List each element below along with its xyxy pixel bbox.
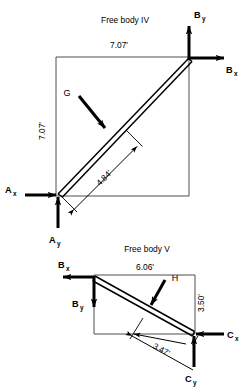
free-body-v-title: Free body V <box>124 244 170 254</box>
free-body-iv-left-dimension: 7.07' <box>37 122 47 140</box>
force-label-cy-v: C <box>185 374 192 384</box>
force-label-by-iv: B <box>194 10 201 20</box>
force-label-cx-v: C <box>227 330 234 340</box>
force-label-ay-iv: A <box>49 235 56 245</box>
load-arrow-h <box>151 280 165 305</box>
force-sublabel-ax-iv: x <box>13 190 17 197</box>
force-sublabel-by-iv: y <box>202 15 206 23</box>
force-label-bx-iv: B <box>226 65 233 75</box>
dimension-label-484: 4.84' <box>94 168 114 188</box>
load-label-g: G <box>63 88 70 98</box>
force-label-by-v: B <box>72 299 79 309</box>
force-sublabel-ay-iv: y <box>57 240 61 248</box>
free-body-iv-member <box>58 59 192 198</box>
force-label-ax-iv: A <box>5 185 12 195</box>
free-body-v-top-dimension: 6.06' <box>136 262 154 272</box>
free-body-iv-top-dimension: 7.07' <box>110 40 128 50</box>
force-sublabel-by-v: y <box>80 304 84 312</box>
free-body-iv-group: Free body IV 7.07' 7.07' B y B x <box>5 10 238 248</box>
dimension-label-347: 3.47' <box>151 341 172 359</box>
free-body-v-group: Free body V 6.06' 3.50' B x B y <box>58 244 239 387</box>
free-body-diagram-figure: Free body IV 7.07' 7.07' B y B x <box>0 0 250 392</box>
load-label-h: H <box>172 273 179 283</box>
force-sublabel-bx-v: x <box>66 265 70 272</box>
free-body-v-member <box>93 276 195 336</box>
load-arrow-g <box>79 96 105 128</box>
force-sublabel-bx-iv: x <box>234 70 238 77</box>
dimension-484-iv <box>61 130 143 212</box>
free-body-v-right-dimension: 3.50' <box>196 294 206 312</box>
force-sublabel-cx-v: x <box>235 335 239 342</box>
free-body-iv-title: Free body IV <box>101 15 149 25</box>
force-label-bx-v: B <box>58 260 65 270</box>
force-sublabel-cy-v: y <box>193 379 197 387</box>
